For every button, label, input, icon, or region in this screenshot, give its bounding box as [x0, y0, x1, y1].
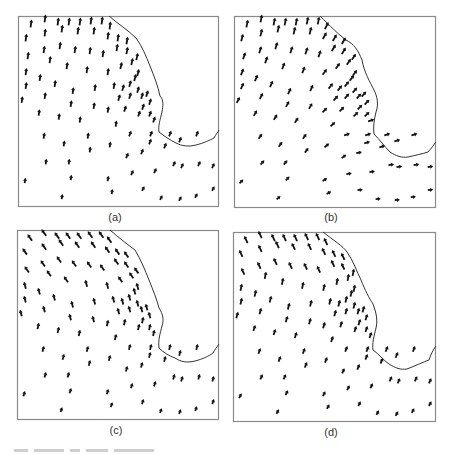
vector-arrow — [320, 247, 327, 256]
vector-arrow — [24, 33, 29, 41]
vector-arrow — [133, 266, 140, 274]
vector-arrow — [364, 313, 370, 321]
vector-arrow — [60, 194, 65, 200]
vector-arrow — [36, 287, 42, 295]
vector-arrow — [272, 17, 277, 26]
vector-arrow — [127, 305, 133, 313]
vector-arrow — [167, 343, 172, 350]
vector-arrow — [253, 74, 259, 82]
vector-arrow — [128, 271, 135, 279]
vector-arrow — [268, 295, 274, 303]
vector-arrow — [67, 313, 73, 320]
vector-arrow — [307, 102, 314, 110]
vector-arrow — [369, 382, 375, 389]
vector-arrow — [301, 347, 307, 354]
vector-arrow — [144, 90, 150, 98]
vector-arrow — [140, 398, 145, 404]
vector-arrow — [147, 98, 153, 106]
vector-arrow — [135, 299, 141, 307]
vector-arrow — [107, 354, 112, 361]
vector-arrow — [89, 16, 94, 24]
vector-arrow — [363, 98, 370, 106]
vector-arrow — [256, 261, 263, 269]
vector-arrow — [275, 194, 282, 200]
vector-arrow — [22, 281, 28, 289]
vector-arrow — [293, 116, 300, 124]
vector-arrow — [234, 311, 240, 319]
vector-arrow — [112, 82, 117, 89]
vector-arrow — [348, 74, 355, 82]
vector-arrow — [332, 309, 338, 317]
vector-arrow — [336, 299, 342, 307]
vector-arrow — [322, 176, 329, 182]
vector-arrow — [308, 299, 314, 307]
vector-arrow — [127, 343, 132, 350]
vector-arrow — [85, 260, 93, 268]
vector-arrow — [88, 47, 93, 55]
vector-arrow — [427, 377, 433, 384]
vector-arrow — [315, 265, 322, 273]
vector-arrow — [239, 68, 245, 76]
vector-arrow — [44, 158, 49, 164]
vector-arrow — [281, 233, 288, 242]
vector-arrow — [140, 316, 145, 323]
vector-arrow — [124, 365, 129, 372]
vector-arrow — [294, 17, 299, 26]
vector-arrow — [239, 82, 246, 90]
vector-arrow — [288, 46, 294, 54]
vector-arrow — [61, 353, 66, 360]
vector-arrow — [100, 16, 105, 24]
vector-arrow — [64, 231, 72, 240]
vector-arrow — [92, 26, 97, 34]
vector-arrow — [357, 188, 363, 192]
vector-arrow — [344, 132, 351, 138]
vector-arrow — [58, 41, 63, 49]
panel-a — [18, 16, 219, 207]
vector-arrow — [272, 328, 278, 335]
vector-arrow — [41, 345, 46, 352]
vector-arrow — [360, 90, 367, 98]
vector-arrow — [171, 160, 177, 167]
vector-arrow — [97, 230, 105, 239]
vector-arrow — [364, 353, 370, 360]
vector-arrow — [355, 363, 361, 370]
vector-arrow — [122, 250, 130, 259]
vector-arrow — [140, 185, 146, 192]
vector-arrow — [375, 409, 381, 415]
vector-arrow — [379, 357, 385, 364]
vector-field-plot — [18, 16, 219, 207]
vector-arrow — [257, 133, 264, 140]
vector-arrow — [330, 44, 337, 52]
vector-arrow — [129, 169, 135, 176]
vector-arrow — [290, 242, 297, 251]
vector-arrow — [124, 36, 129, 44]
vector-arrow — [330, 249, 337, 258]
vector-arrow — [139, 305, 145, 313]
vector-arrow — [177, 349, 182, 356]
vector-arrow — [56, 17, 61, 25]
vector-arrow — [162, 355, 167, 362]
vector-field-plot — [234, 16, 436, 208]
coastline — [320, 16, 436, 157]
vector-arrow — [101, 50, 106, 58]
vector-arrow — [413, 162, 419, 167]
vector-arrow — [272, 113, 279, 121]
vector-arrow — [352, 110, 359, 117]
vector-arrow — [257, 244, 264, 253]
vector-arrow — [20, 96, 25, 103]
vector-arrow — [37, 109, 42, 116]
vector-arrow — [272, 257, 279, 266]
vector-arrow — [242, 235, 249, 244]
vector-arrow — [322, 237, 329, 246]
vector-arrow — [177, 136, 183, 143]
coastline — [110, 230, 219, 362]
vector-arrow — [194, 130, 200, 137]
vector-arrow — [323, 142, 330, 149]
vector-arrow — [136, 110, 142, 117]
vector-arrow — [53, 231, 61, 240]
vector-arrow — [314, 232, 321, 241]
panel-label-a: (a) — [95, 211, 135, 223]
vector-arrow — [253, 289, 258, 297]
vector-arrow — [152, 167, 158, 174]
vector-arrow — [91, 297, 97, 305]
